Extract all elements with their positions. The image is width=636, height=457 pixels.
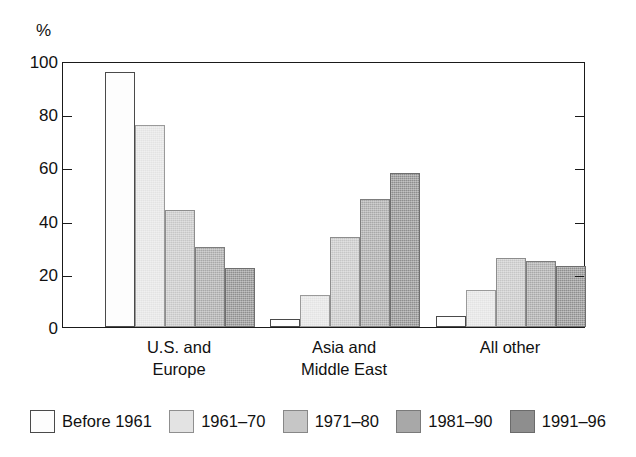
legend-swatch [510,410,535,433]
legend-swatch [30,410,55,433]
legend-item: 1971–80 [283,410,379,433]
legend-item: 1991–96 [510,410,606,433]
bar [390,173,420,327]
bar [165,210,195,327]
x-axis-category-labels: U.S. and EuropeAsia and Middle EastAll o… [62,336,585,390]
x-axis-category-label: All other [420,336,600,358]
legend-item: Before 1961 [30,410,152,433]
legend-item: 1961–70 [169,410,265,433]
y-tick-mark-right-80 [575,116,584,117]
y-axis-tick-labels: 020406080100 [0,62,58,328]
legend-label: 1971–80 [315,413,379,430]
x-axis-category-label: Asia and Middle East [254,336,434,380]
y-axis-tick-100: 100 [4,54,58,71]
bar [360,199,390,327]
bar [466,290,496,327]
y-axis-tick-0: 0 [4,320,58,337]
y-tick-mark-right-60 [575,169,584,170]
y-axis-tick-60: 60 [4,160,58,177]
bar-chart-figure: % 020406080100 U.S. and EuropeAsia and M… [0,0,636,457]
y-tick-mark-left-80 [63,116,72,117]
bar [300,295,330,327]
y-tick-mark-left-60 [63,169,72,170]
plot-area [62,62,585,328]
bar [270,319,300,327]
bar [225,268,255,327]
y-axis-unit-label: % [36,22,51,39]
bar [330,237,360,327]
bar [195,247,225,327]
legend-item: 1981–90 [396,410,492,433]
bar [496,258,526,327]
y-axis-tick-40: 40 [4,213,58,230]
y-tick-mark-right-20 [575,276,584,277]
y-tick-mark-left-20 [63,276,72,277]
legend-label: Before 1961 [62,413,152,430]
bars-layer [63,63,584,327]
y-tick-mark-left-40 [63,223,72,224]
legend-label: 1961–70 [201,413,265,430]
bar [436,316,466,327]
x-axis-category-label: U.S. and Europe [89,336,269,380]
legend-swatch [283,410,308,433]
bar [135,125,165,327]
y-tick-mark-right-40 [575,223,584,224]
legend-swatch [169,410,194,433]
y-axis-tick-20: 20 [4,266,58,283]
legend-label: 1981–90 [428,413,492,430]
bar [526,261,556,328]
chart-legend: Before 19611961–701971–801981–901991–96 [30,404,606,438]
legend-swatch [396,410,421,433]
y-axis-tick-80: 80 [4,107,58,124]
bar [105,72,135,327]
legend-label: 1991–96 [542,413,606,430]
